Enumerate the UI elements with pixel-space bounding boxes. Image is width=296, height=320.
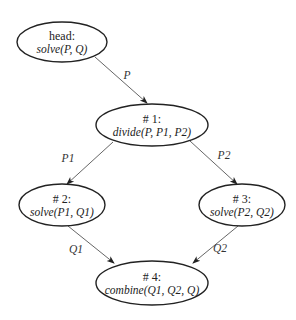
- edge-label: Q1: [69, 243, 83, 255]
- node-title: # 2:: [53, 192, 71, 206]
- edges: PP1P2Q1Q2: [61, 57, 238, 263]
- node-label: divide(P, P1, P2): [113, 126, 192, 139]
- node-title: # 1:: [143, 112, 161, 126]
- node-n2: # 2:solve(P1, Q1): [19, 184, 105, 226]
- node-label: solve(P2, Q2): [210, 206, 274, 219]
- node-head: head:solve(P, Q): [17, 22, 107, 62]
- edge-arrow: [95, 57, 147, 103]
- node-label: solve(P, Q): [37, 43, 88, 56]
- edge-arrow: [190, 141, 237, 184]
- flow-diagram: PP1P2Q1Q2 head:solve(P, Q)# 1:divide(P, …: [0, 0, 296, 320]
- edge-n1-to-n3: P2: [190, 141, 237, 184]
- node-n4: # 4:combine(Q1, Q2, Q): [96, 261, 208, 305]
- edge-label: P: [122, 69, 130, 81]
- node-label: combine(Q1, Q2, Q): [105, 284, 200, 297]
- edge-head-to-n1: P: [95, 57, 147, 103]
- node-n1: # 1:divide(P, P1, P2): [96, 104, 208, 146]
- edge-label: Q2: [213, 242, 227, 254]
- nodes: head:solve(P, Q)# 1:divide(P, P1, P2)# 2…: [17, 22, 285, 305]
- node-title: head:: [49, 29, 75, 43]
- edge-label: P2: [217, 149, 231, 161]
- edge-n3-to-n4: Q2: [193, 226, 238, 263]
- node-title: # 3:: [233, 192, 251, 206]
- node-title: # 4:: [143, 270, 161, 284]
- node-n3: # 3:solve(P2, Q2): [199, 184, 285, 226]
- edge-n2-to-n4: Q1: [68, 226, 114, 263]
- node-label: solve(P1, Q1): [30, 206, 94, 219]
- edge-label: P1: [61, 152, 75, 164]
- edge-n1-to-n2: P1: [61, 142, 113, 184]
